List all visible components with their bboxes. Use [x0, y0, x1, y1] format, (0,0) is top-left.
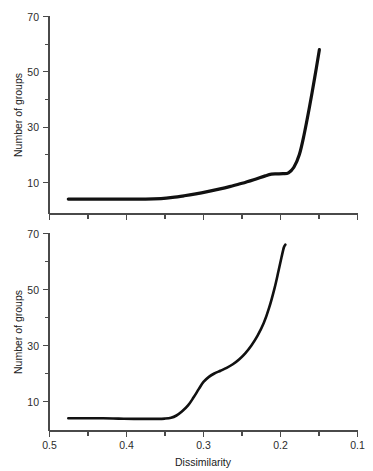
bottom-panel-x-axis-title: Dissimilarity [175, 456, 232, 468]
top-panel: 70 50 30 10 Number of groups [12, 11, 358, 221]
bottom-panel: 70 50 30 10 0.5 0.4 0.3 0.2 [12, 228, 365, 469]
bottom-panel-xtick-label-01: 0.1 [350, 439, 365, 451]
bottom-panel-ytick-label-50: 50 [27, 284, 39, 296]
top-panel-y-axis-title: Number of groups [12, 73, 24, 157]
bottom-panel-ytick-label-10: 10 [27, 396, 39, 408]
bottom-panel-xtick-label-04: 0.4 [119, 439, 134, 451]
top-panel-x-ticks [50, 214, 358, 220]
bottom-panel-xtick-label-03: 0.3 [196, 439, 211, 451]
bottom-panel-xtick-label-02: 0.2 [273, 439, 288, 451]
top-panel-ytick-label-70: 70 [27, 11, 39, 23]
top-panel-y-tick-labels: 70 50 30 10 [27, 11, 39, 189]
figure-container: 70 50 30 10 Number of groups [0, 0, 373, 471]
bottom-panel-x-ticks [50, 431, 358, 437]
top-panel-ytick-label-30: 30 [27, 121, 39, 133]
bottom-panel-ytick-label-30: 30 [27, 340, 39, 352]
bottom-panel-y-axis-title: Number of groups [12, 290, 24, 374]
chart-svg: 70 50 30 10 Number of groups [0, 0, 373, 471]
top-panel-data-curve [68, 50, 319, 199]
bottom-panel-ytick-label-70: 70 [27, 228, 39, 240]
top-panel-ytick-label-50: 50 [27, 66, 39, 78]
bottom-panel-x-tick-labels: 0.5 0.4 0.3 0.2 0.1 [42, 439, 365, 451]
bottom-panel-y-ticks [43, 234, 49, 402]
bottom-panel-data-curve [68, 245, 285, 419]
top-panel-y-ticks [43, 17, 49, 183]
bottom-panel-y-tick-labels: 70 50 30 10 [27, 228, 39, 408]
top-panel-ytick-label-10: 10 [27, 177, 39, 189]
bottom-panel-xtick-label-05: 0.5 [42, 439, 57, 451]
